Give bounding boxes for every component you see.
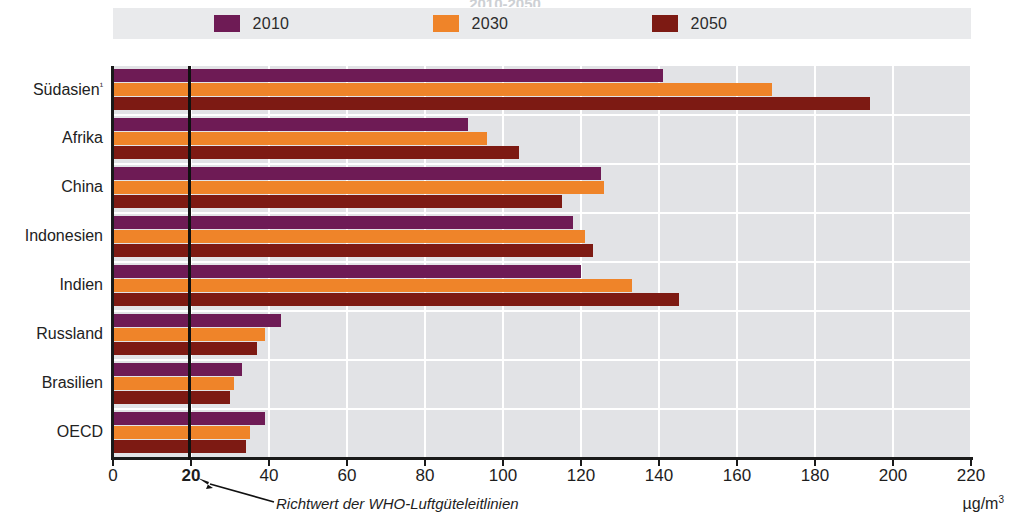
bar-2050[interactable] bbox=[113, 391, 230, 404]
bar-group bbox=[113, 167, 971, 210]
y-tick-label: Indien bbox=[0, 276, 103, 294]
y-tick-label: China bbox=[0, 178, 103, 196]
gridline-horizontal bbox=[113, 114, 971, 116]
y-tick-label: Afrika bbox=[0, 129, 103, 147]
bar-2030[interactable] bbox=[113, 230, 585, 243]
bar-2010[interactable] bbox=[113, 265, 581, 278]
bar-group bbox=[113, 314, 971, 357]
bar-2010[interactable] bbox=[113, 216, 573, 229]
bar-2050[interactable] bbox=[113, 342, 257, 355]
legend-swatch-icon bbox=[214, 15, 240, 32]
bar-2050[interactable] bbox=[113, 195, 562, 208]
chart-legend: 201020302050 bbox=[113, 8, 971, 39]
bar-group bbox=[113, 118, 971, 161]
legend-swatch-icon bbox=[433, 15, 459, 32]
who-annotation-label: Richtwert der WHO-Luftgüteleitlinien bbox=[276, 495, 519, 512]
x-tick-label: 100 bbox=[489, 466, 517, 486]
x-tick-label: 0 bbox=[108, 466, 117, 486]
x-tick-label: 120 bbox=[567, 466, 595, 486]
x-tick-label: 220 bbox=[957, 466, 985, 486]
gridline-horizontal bbox=[113, 163, 971, 165]
bar-group bbox=[113, 216, 971, 259]
x-tick-label: 160 bbox=[723, 466, 751, 486]
legend-item-2030[interactable]: 2030 bbox=[433, 15, 652, 33]
x-tick-label: 40 bbox=[260, 466, 279, 486]
legend-label: 2030 bbox=[472, 15, 509, 33]
unit-label: µg/m3 bbox=[963, 494, 1004, 513]
bar-2010[interactable] bbox=[113, 118, 468, 131]
bar-2010[interactable] bbox=[113, 363, 242, 376]
x-tick-label: 180 bbox=[801, 466, 829, 486]
x-axis-ticks: 020406080100120140160180200220 bbox=[113, 460, 971, 490]
bar-group bbox=[113, 69, 971, 112]
y-tick-label: Indonesien bbox=[0, 227, 103, 245]
x-tick-label: 140 bbox=[645, 466, 673, 486]
legend-item-2010[interactable]: 2010 bbox=[214, 15, 433, 33]
footnote-marker: ¹ bbox=[100, 80, 103, 91]
plot-area bbox=[113, 66, 971, 458]
x-tick-label: 20 bbox=[182, 466, 201, 486]
bar-2030[interactable] bbox=[113, 132, 487, 145]
y-tick-label: OECD bbox=[0, 423, 103, 441]
bar-2030[interactable] bbox=[113, 181, 604, 194]
bar-2050[interactable] bbox=[113, 146, 519, 159]
bar-2010[interactable] bbox=[113, 167, 601, 180]
gridline-horizontal bbox=[113, 408, 971, 410]
bar-group bbox=[113, 265, 971, 308]
cut-off-title: 2010-2050 bbox=[0, 0, 1010, 7]
bar-2010[interactable] bbox=[113, 314, 281, 327]
y-tick-label: Südasien¹ bbox=[0, 80, 103, 99]
gridline-horizontal bbox=[113, 359, 971, 361]
bar-2050[interactable] bbox=[113, 244, 593, 257]
x-tick-label: 200 bbox=[879, 466, 907, 486]
unit-text: µg/m bbox=[963, 495, 999, 512]
bar-2050[interactable] bbox=[113, 440, 246, 453]
bar-2030[interactable] bbox=[113, 377, 234, 390]
x-tick-label: 80 bbox=[416, 466, 435, 486]
legend-label: 2050 bbox=[691, 15, 728, 33]
gridline-horizontal bbox=[113, 310, 971, 312]
y-axis-labels: Südasien¹AfrikaChinaIndonesienIndienRuss… bbox=[0, 66, 103, 458]
gridline-horizontal bbox=[113, 212, 971, 214]
y-tick-label: Brasilien bbox=[0, 374, 103, 392]
bar-group bbox=[113, 363, 971, 406]
legend-label: 2010 bbox=[253, 15, 290, 33]
bar-2010[interactable] bbox=[113, 69, 663, 82]
chart-page: 2010-2050 201020302050 Südasien¹AfrikaCh… bbox=[0, 0, 1010, 526]
x-tick-label: 60 bbox=[338, 466, 357, 486]
legend-swatch-icon bbox=[652, 15, 678, 32]
bar-2030[interactable] bbox=[113, 426, 250, 439]
unit-exponent: 3 bbox=[998, 494, 1004, 505]
bar-group bbox=[113, 412, 971, 455]
y-tick-label: Russland bbox=[0, 325, 103, 343]
y-axis-line bbox=[111, 66, 114, 460]
who-reference-line bbox=[188, 66, 191, 460]
gridline-horizontal bbox=[113, 261, 971, 263]
bar-2050[interactable] bbox=[113, 97, 870, 110]
bar-2050[interactable] bbox=[113, 293, 679, 306]
bar-2030[interactable] bbox=[113, 83, 772, 96]
legend-item-2050[interactable]: 2050 bbox=[652, 15, 871, 33]
